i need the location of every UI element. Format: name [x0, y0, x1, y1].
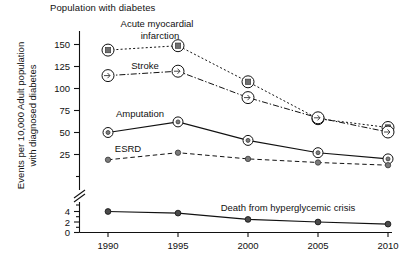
y-tick-group-lower — [74, 205, 80, 233]
y-tick-label-75: 75 — [59, 105, 70, 116]
marker-esrd-1995 — [175, 150, 180, 155]
marker-stroke-2000 — [242, 92, 254, 104]
marker-death-2005 — [315, 219, 321, 225]
y-tick-label-2: 2 — [65, 217, 70, 228]
y-tick-label-150: 150 — [54, 39, 70, 50]
y-tick-label-50: 50 — [59, 127, 70, 138]
marker-amputation-1995 — [173, 117, 183, 127]
x-tick-group — [108, 233, 388, 238]
series-label-ami-line-2: infarction — [141, 30, 180, 41]
marker-amputation-2000 — [243, 135, 253, 145]
y-tick-label-125: 125 — [54, 61, 70, 72]
marker-esrd-2005 — [315, 160, 320, 165]
marker-death-1995 — [175, 210, 181, 216]
series-esrd — [105, 150, 390, 168]
chart-figure: Population with diabetes Events per 10,0… — [0, 0, 401, 263]
series-label-stroke: Stroke — [131, 60, 158, 71]
marker-esrd-1990 — [105, 157, 110, 162]
plot-area: 150 125 100 75 50 25 4 2 0 1990 1995 200… — [0, 0, 401, 263]
x-tick-label-1995: 1995 — [167, 240, 188, 251]
x-tick-label-2005: 2005 — [307, 240, 328, 251]
marker-stroke-2005 — [312, 112, 324, 124]
marker-ami-1990 — [102, 44, 114, 56]
y-tick-label-100: 100 — [54, 83, 70, 94]
marker-death-1990 — [105, 209, 111, 215]
marker-ami-1995 — [172, 40, 184, 52]
x-tick-label-1990: 1990 — [97, 240, 118, 251]
x-tick-label-2000: 2000 — [237, 240, 258, 251]
y-tick-label-25: 25 — [59, 149, 70, 160]
marker-ami-2000 — [242, 76, 254, 88]
series-acute-myocardial-infarction — [102, 40, 394, 134]
marker-amputation-1990 — [103, 128, 113, 138]
y-tick-label-4: 4 — [65, 206, 70, 217]
series-label-ami-line-1: Acute myocardial — [121, 18, 194, 29]
x-tick-label-2010: 2010 — [377, 240, 398, 251]
series-label-amputation: Amputation — [116, 108, 164, 119]
marker-death-2010 — [385, 221, 391, 227]
marker-stroke-1995 — [172, 65, 184, 77]
marker-stroke-1990 — [102, 70, 114, 82]
marker-esrd-2010 — [385, 163, 390, 168]
series-label-esrd: ESRD — [115, 143, 142, 154]
marker-stroke-2010 — [382, 126, 394, 138]
y-tick-label-0: 0 — [65, 227, 70, 238]
marker-death-2000 — [245, 217, 251, 223]
y-tick-group-upper — [74, 45, 80, 177]
series-label-death: Death from hyperglycemic crisis — [221, 202, 356, 213]
marker-amputation-2005 — [313, 148, 323, 158]
marker-esrd-2000 — [245, 156, 250, 161]
axis-break-icon — [74, 190, 85, 202]
